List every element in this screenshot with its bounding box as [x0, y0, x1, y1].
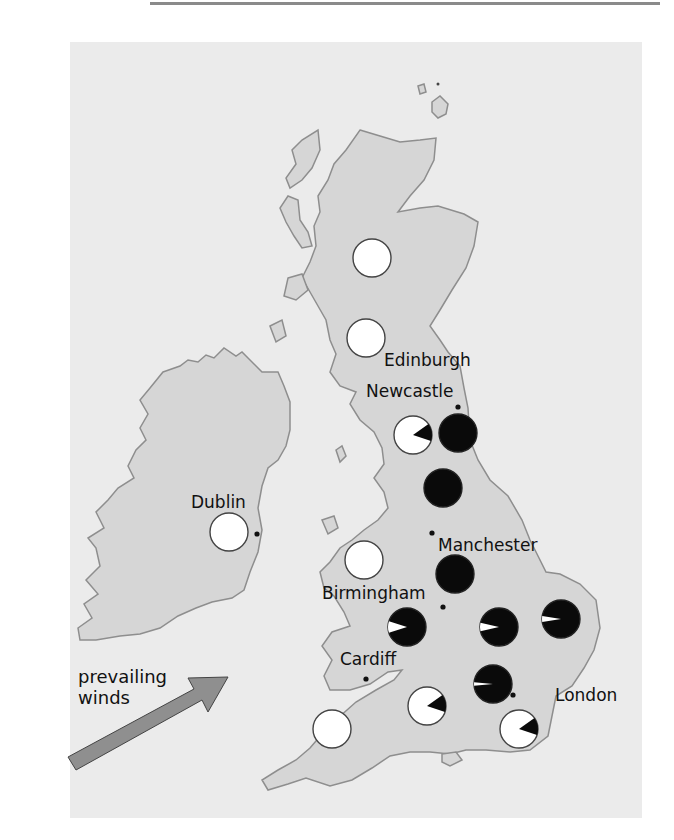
city-dot-london [510, 692, 515, 697]
city-dot-cardiff [363, 676, 368, 681]
shetland-dot [437, 83, 440, 86]
pie-chart [474, 665, 512, 703]
pie-chart [439, 414, 477, 452]
islay-island [270, 320, 286, 342]
map-svg [0, 0, 674, 840]
anglesey-island [322, 516, 338, 534]
wind-label-line2: winds [78, 687, 167, 708]
pie-chart [353, 239, 391, 277]
prevailing-winds-label: prevailing winds [78, 666, 167, 708]
pie-chart [500, 710, 538, 748]
city-dot-newcastle [455, 404, 460, 409]
pie-chart [210, 513, 248, 551]
orkney-small-island [418, 84, 426, 94]
outer-hebrides-island [286, 130, 320, 188]
city-label-cardiff: Cardiff [340, 649, 396, 669]
pie-chart [480, 608, 518, 646]
pie-chart [394, 416, 432, 454]
city-dot-birmingham [440, 604, 445, 609]
isle-of-man [336, 446, 346, 462]
city-label-manchester: Manchester [438, 535, 537, 555]
pie-chart [424, 469, 462, 507]
pie-chart [388, 608, 426, 646]
city-label-dublin: Dublin [191, 492, 246, 512]
pie-chart [347, 319, 385, 357]
city-label-london: London [555, 685, 617, 705]
ireland-landmass [78, 348, 290, 640]
pie-chart [436, 555, 474, 593]
pie-chart [345, 541, 383, 579]
pie-chart [542, 600, 580, 638]
isle-of-wight [442, 752, 462, 766]
pie-chart [313, 710, 351, 748]
city-dot-dublin [254, 531, 259, 536]
city-label-birmingham: Birmingham [322, 583, 426, 603]
skye-island [280, 196, 312, 248]
pie-chart [408, 687, 446, 725]
wind-label-line1: prevailing [78, 666, 167, 687]
orkney-islands [432, 96, 448, 118]
city-dot-manchester [429, 530, 434, 535]
city-label-newcastle: Newcastle [366, 381, 454, 401]
city-label-edinburgh: Edinburgh [384, 350, 471, 370]
